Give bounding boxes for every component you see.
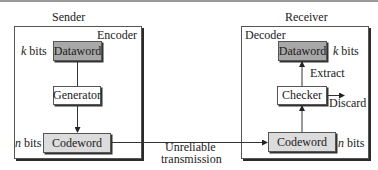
connector-lines	[0, 0, 378, 170]
